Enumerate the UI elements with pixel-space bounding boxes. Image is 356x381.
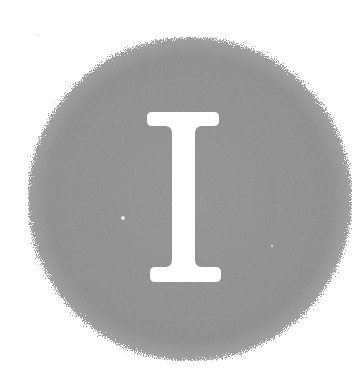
drop-cap-illustration: I: [0, 0, 356, 381]
textured-gray-disc: [0, 0, 356, 381]
